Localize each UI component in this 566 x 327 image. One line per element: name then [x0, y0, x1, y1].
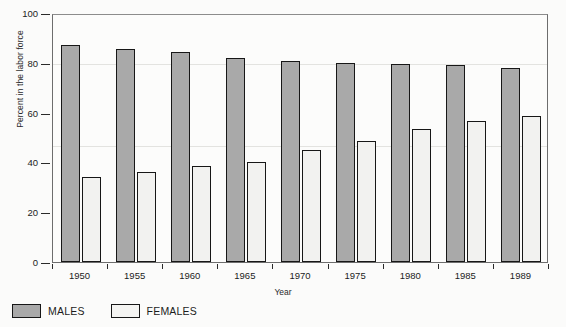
- bar-males-1980: [391, 64, 410, 262]
- bar-females-1965: [247, 162, 266, 262]
- y-tick-label: 60: [8, 108, 38, 119]
- y-tick-mark: [41, 114, 50, 115]
- x-tick-label: 1970: [270, 270, 330, 281]
- legend-item-females[interactable]: FEMALES: [111, 304, 197, 318]
- y-tick-label: 0: [8, 257, 38, 268]
- x-tick-mark: [272, 264, 273, 269]
- bar-males-1970: [281, 61, 300, 262]
- bar-males-1960: [171, 52, 190, 262]
- x-tick-mark: [217, 264, 218, 269]
- legend-label: FEMALES: [147, 305, 197, 317]
- x-tick-label: 1950: [50, 270, 110, 281]
- y-tick-mark: [41, 263, 50, 264]
- x-axis-title: Year: [0, 287, 566, 297]
- bar-males-1975: [336, 63, 355, 262]
- x-tick-label: 1989: [490, 270, 550, 281]
- plot-area: [52, 14, 548, 263]
- x-tick-mark: [548, 264, 549, 269]
- y-tick-label: 100: [8, 8, 38, 19]
- x-tick-mark: [107, 264, 108, 269]
- chart-page: Percent in the labor force 020406080100 …: [0, 0, 566, 327]
- x-tick-mark: [52, 264, 53, 269]
- y-tick-label: 80: [8, 58, 38, 69]
- legend-label: MALES: [48, 305, 85, 317]
- x-tick-label: 1985: [435, 270, 495, 281]
- y-tick-mark: [41, 64, 50, 65]
- x-tick-mark: [383, 264, 384, 269]
- female-swatch-icon: [111, 304, 140, 318]
- x-tick-mark: [162, 264, 163, 269]
- bar-males-1985: [446, 65, 465, 262]
- male-swatch-icon: [12, 304, 41, 318]
- x-tick-mark: [438, 264, 439, 269]
- bar-females-1975: [357, 141, 376, 262]
- bar-males-1955: [116, 49, 135, 262]
- bar-females-1960: [192, 166, 211, 262]
- bar-females-1989: [522, 116, 541, 262]
- bar-males-1965: [226, 58, 245, 262]
- legend-item-males[interactable]: MALES: [12, 304, 85, 318]
- x-tick-label: 1960: [160, 270, 220, 281]
- x-tick-label: 1975: [325, 270, 385, 281]
- bar-females-1985: [467, 121, 486, 262]
- plot-inner: [53, 15, 547, 262]
- chart-legend: MALESFEMALES: [12, 304, 214, 318]
- bar-females-1970: [302, 150, 321, 262]
- bar-males-1989: [501, 68, 520, 262]
- y-tick-label: 40: [8, 157, 38, 168]
- x-tick-mark: [328, 264, 329, 269]
- x-tick-label: 1965: [215, 270, 275, 281]
- y-tick-mark: [41, 163, 50, 164]
- x-tick-label: 1955: [105, 270, 165, 281]
- x-tick-mark: [493, 264, 494, 269]
- y-axis-title: Percent in the labor force: [15, 0, 25, 179]
- bar-females-1980: [412, 129, 431, 262]
- y-tick-mark: [41, 14, 50, 15]
- bar-females-1955: [137, 172, 156, 262]
- bar-females-1950: [82, 177, 101, 262]
- y-tick-mark: [41, 213, 50, 214]
- y-tick-label: 20: [8, 207, 38, 218]
- x-tick-label: 1980: [380, 270, 440, 281]
- bar-males-1950: [61, 45, 80, 262]
